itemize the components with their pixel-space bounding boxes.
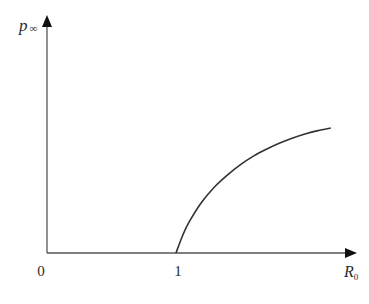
p-infinity-curve [176,128,331,253]
x-tick-label: 0 [37,263,45,279]
x-axis-label-main: R [343,263,354,280]
x-axis-arrowhead [345,248,357,258]
y-axis-label: p∞ [18,16,38,35]
x-tick-label: 1 [174,263,182,279]
y-axis-label-main: p [18,16,28,35]
y-axis-arrowhead [42,15,52,27]
figure: p∞ R0 0 1 [0,0,369,304]
y-axis-label-subscript: ∞ [30,22,38,34]
x-axis-label: R0 [343,263,359,282]
x-axis-label-subscript: 0 [354,272,359,282]
